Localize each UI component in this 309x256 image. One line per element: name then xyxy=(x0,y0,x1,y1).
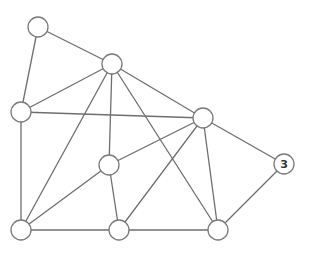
edge-d-e xyxy=(109,118,203,165)
node-i xyxy=(208,220,228,240)
node-f: 3 xyxy=(274,154,294,174)
node-circle xyxy=(109,220,129,240)
node-circle xyxy=(11,220,31,240)
edge-a-c xyxy=(21,27,38,112)
node-b xyxy=(102,54,122,74)
node-h xyxy=(109,220,129,240)
node-g xyxy=(11,220,31,240)
node-circle xyxy=(193,108,213,128)
graph-edges xyxy=(21,27,284,230)
edge-b-d xyxy=(112,64,203,118)
node-c xyxy=(11,102,31,122)
edge-i-f xyxy=(218,164,284,230)
edge-a-b xyxy=(38,27,112,64)
node-circle xyxy=(208,220,228,240)
node-d xyxy=(193,108,213,128)
edge-d-i xyxy=(203,118,218,230)
node-circle xyxy=(99,155,119,175)
node-circle xyxy=(28,17,48,37)
graph-diagram: 3 xyxy=(0,0,309,256)
node-e xyxy=(99,155,119,175)
edge-d-h xyxy=(119,118,203,230)
edge-e-g xyxy=(21,165,109,230)
node-circle xyxy=(11,102,31,122)
edge-b-g xyxy=(21,64,112,230)
edge-d-f xyxy=(203,118,284,164)
edge-c-d xyxy=(21,112,203,118)
node-a xyxy=(28,17,48,37)
edge-b-i xyxy=(112,64,218,230)
node-circle xyxy=(102,54,122,74)
node-label: 3 xyxy=(280,158,288,171)
